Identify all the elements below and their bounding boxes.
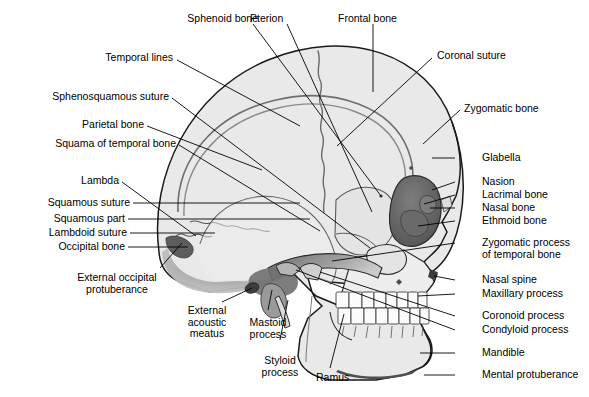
- label-zygomatic-bone: Zygomatic bone: [464, 103, 539, 115]
- label-mastoid-process-line1: Mastoid: [240, 317, 296, 329]
- skull-diagram-figure: Sphenoid bone Pterion Frontal bone Coron…: [0, 0, 589, 397]
- label-maxillary-process: Maxillary process: [482, 288, 563, 300]
- label-condyloid-process: Condyloid process: [482, 324, 568, 336]
- label-sphenoid-bone: Sphenoid bone: [88, 13, 258, 25]
- label-coronoid-process: Coronoid process: [482, 310, 564, 322]
- label-zygomatic-process-line1: Zygomatic process: [482, 237, 570, 249]
- label-external-occipital-protuberance-line2: protuberance: [58, 284, 176, 296]
- label-styloid-process-line1: Styloid: [252, 355, 308, 367]
- label-nasal-bone: Nasal bone: [482, 202, 535, 214]
- label-external-acoustic-meatus-line3: meatus: [178, 328, 236, 340]
- label-zygomatic-process-line2: of temporal bone: [482, 249, 570, 261]
- label-mastoid-process: Mastoid process: [240, 317, 296, 340]
- label-nasal-spine: Nasal spine: [482, 274, 537, 286]
- label-zygomatic-process-of-temporal-bone: Zygomatic process of temporal bone: [482, 237, 570, 260]
- label-ramus: Ramus: [316, 372, 349, 384]
- leader-nasal-spine: [434, 276, 455, 280]
- label-coronal-suture: Coronal suture: [437, 50, 506, 62]
- label-mandible: Mandible: [482, 347, 525, 359]
- label-squamous-part: Squamous part: [10, 213, 125, 225]
- label-sphenosquamous-suture: Sphenosquamous suture: [14, 91, 169, 103]
- label-occipital-bone: Occipital bone: [10, 241, 125, 253]
- label-squamous-suture: Squamous suture: [10, 197, 130, 209]
- label-lacrimal-bone: Lacrimal bone: [482, 189, 548, 201]
- label-ethmoid-bone: Ethmoid bone: [482, 215, 547, 227]
- label-squama-of-temporal-bone: Squama of temporal bone: [8, 138, 176, 150]
- upper-teeth-row: [336, 292, 427, 308]
- label-glabella: Glabella: [482, 152, 521, 164]
- label-styloid-process: Styloid process: [252, 355, 308, 378]
- label-mastoid-process-line2: process: [240, 329, 296, 341]
- lower-teeth-row: [338, 308, 429, 324]
- label-lambdoid-suture: Lambdoid suture: [10, 227, 127, 239]
- label-pterion: Pterion: [250, 13, 283, 25]
- label-external-occipital-protuberance: External occipital protuberance: [58, 272, 176, 295]
- label-lambda: Lambda: [20, 175, 119, 187]
- label-parietal-bone: Parietal bone: [20, 119, 144, 131]
- label-nasion: Nasion: [482, 176, 515, 188]
- label-external-occipital-protuberance-line1: External occipital: [58, 272, 176, 284]
- lacrimal-bone-shape: [420, 196, 436, 214]
- label-external-acoustic-meatus: External acoustic meatus: [178, 305, 236, 340]
- label-external-acoustic-meatus-line1: External: [178, 305, 236, 317]
- label-temporal-lines: Temporal lines: [25, 52, 173, 64]
- label-frontal-bone: Frontal bone: [338, 13, 397, 25]
- supraorbital-foramen-marker: [409, 166, 413, 170]
- label-mental-protuberance: Mental protuberance: [482, 369, 578, 381]
- label-styloid-process-line2: process: [252, 367, 308, 379]
